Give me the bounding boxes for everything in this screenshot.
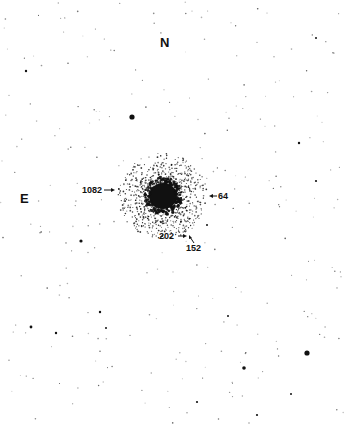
star-label-1082: 1082 [82, 186, 102, 195]
star-label-202: 202 [159, 232, 174, 241]
north-label: N [160, 36, 169, 49]
star-field-chart [0, 0, 347, 427]
globular-cluster [118, 153, 208, 239]
east-label: E [20, 192, 29, 205]
star-label-152: 152 [186, 244, 201, 253]
bright-stars-layer [25, 37, 317, 416]
star-label-64: 64 [218, 192, 228, 201]
